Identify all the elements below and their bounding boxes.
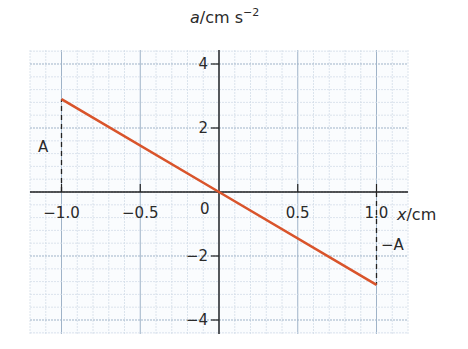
origin-label: 0 [200,200,210,218]
y-axis-title: a/cm s−2 [190,6,259,27]
svg-text:−4: −4 [186,311,208,329]
svg-text:−1.0: −1.0 [43,204,79,222]
svg-text:4: 4 [198,55,208,73]
acceleration-displacement-chart: −1.0−0.50.51.042−2−4 a/cm s−2 x/cm 0 A −… [0,0,468,349]
svg-text:2: 2 [198,119,208,137]
annotation-A: A [38,138,49,156]
x-axis-title: x/cm [396,205,436,224]
svg-text:1.0: 1.0 [365,204,389,222]
svg-text:−2: −2 [186,247,208,265]
svg-text:−0.5: −0.5 [122,204,158,222]
annotation-minus-A: −A [381,236,405,254]
svg-text:0.5: 0.5 [286,204,310,222]
